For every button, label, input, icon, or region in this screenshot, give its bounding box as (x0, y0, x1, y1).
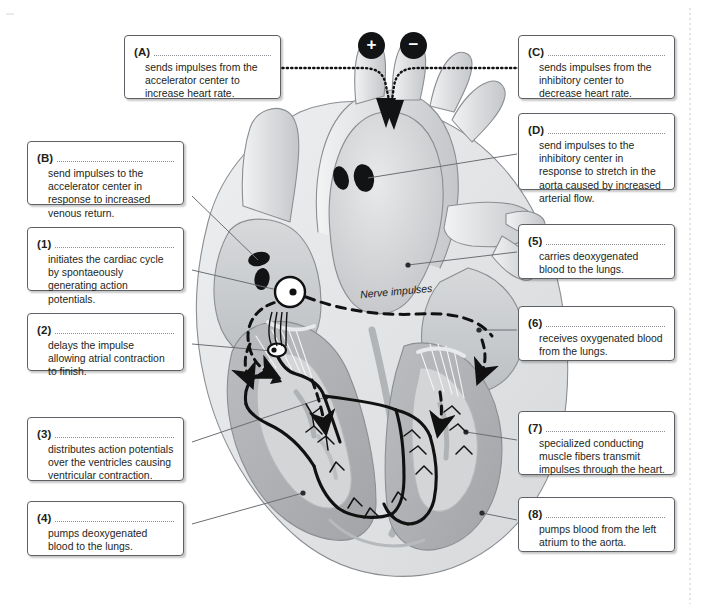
callout-a-header: (A) (134, 43, 271, 58)
callout-4-rule (55, 520, 174, 522)
callout-7-tag: (7) (528, 422, 542, 434)
callout-4[interactable]: (4) pumps deoxygenated blood to the lung… (27, 501, 184, 556)
callout-b[interactable]: (B) send impulses to the accelerator cen… (27, 141, 184, 205)
callout-5-tag: (5) (528, 235, 542, 247)
callout-5-text: carries deoxygenated blood to the lungs. (539, 250, 665, 276)
callout-6-rule (546, 325, 665, 327)
callout-b-text: send impulses to the accelerator center … (48, 167, 174, 220)
callout-d-header: (D) (528, 121, 665, 136)
callout-3-rule (55, 436, 174, 438)
callout-b-tag: (B) (37, 152, 53, 164)
callout-d-rule (548, 132, 665, 134)
callout-1-text: initiates the cardiac cycle by spontaeou… (48, 253, 174, 306)
callout-c-rule (548, 54, 665, 56)
callout-7-header: (7) (528, 419, 665, 434)
callout-8-tag: (8) (528, 508, 542, 520)
callout-5[interactable]: (5) carries deoxygenated blood to the lu… (518, 224, 675, 279)
callout-7-text: specialized conducting muscle fibers tra… (539, 437, 665, 477)
callout-2[interactable]: (2) delays the impulse allowing atrial c… (27, 313, 184, 371)
callout-d[interactable]: (D) send impulses to the inhibitory cent… (518, 113, 675, 190)
callout-3[interactable]: (3) distributes action potentials over t… (27, 417, 184, 481)
callout-1-header: (1) (37, 235, 174, 250)
callout-8-rule (546, 516, 665, 518)
callout-a-rule (154, 54, 271, 56)
callout-6-header: (6) (528, 314, 665, 329)
callout-6-text: receives oxygenated blood from the lungs… (539, 332, 665, 358)
callout-3-tag: (3) (37, 428, 51, 440)
callout-a-text: sends impulses from the accelerator cent… (145, 61, 271, 101)
callout-c-tag: (C) (528, 46, 544, 58)
callout-2-tag: (2) (37, 324, 51, 336)
callout-b-rule (57, 160, 174, 162)
callout-6-tag: (6) (528, 317, 542, 329)
callout-3-text: distributes action potentials over the v… (48, 443, 174, 483)
callout-2-header: (2) (37, 321, 174, 336)
callout-8-header: (8) (528, 505, 665, 520)
callout-b-header: (B) (37, 149, 174, 164)
callout-c[interactable]: (C) sends impulses from the inhibitory c… (518, 35, 675, 99)
callout-6[interactable]: (6) receives oxygenated blood from the l… (518, 306, 675, 361)
callout-1-tag: (1) (37, 238, 51, 250)
plus-badge: + (358, 32, 385, 59)
callout-a-tag: (A) (134, 46, 150, 58)
plus-symbol: + (358, 32, 385, 59)
callout-c-text: sends impulses from the inhibitory cente… (539, 61, 665, 101)
minus-badge: − (400, 32, 427, 59)
callout-d-text: send impulses to the inhibitory center i… (539, 139, 665, 205)
callout-4-text: pumps deoxygenated blood to the lungs. (48, 527, 174, 553)
callout-4-tag: (4) (37, 512, 51, 524)
figure-canvas: + − Nerve impulses (A) sends impulses fr… (0, 0, 701, 612)
callout-8-text: pumps blood from the left atrium to the … (539, 523, 665, 549)
minus-symbol: − (400, 32, 427, 59)
callout-5-header: (5) (528, 232, 665, 247)
callout-4-header: (4) (37, 509, 174, 524)
callout-1-rule (55, 246, 174, 248)
callout-3-header: (3) (37, 425, 174, 440)
callout-7[interactable]: (7) specialized conducting muscle fibers… (518, 411, 675, 475)
callout-c-header: (C) (528, 43, 665, 58)
callout-7-rule (546, 430, 665, 432)
callout-5-rule (546, 243, 665, 245)
callout-2-text: delays the impulse allowing atrial contr… (48, 339, 174, 379)
callout-8[interactable]: (8) pumps blood from the left atrium to … (518, 497, 675, 552)
callout-1[interactable]: (1) initiates the cardiac cycle by spont… (27, 227, 184, 291)
callout-a[interactable]: (A) sends impulses from the accelerator … (124, 35, 281, 99)
callout-2-rule (55, 332, 174, 334)
callout-d-tag: (D) (528, 124, 544, 136)
